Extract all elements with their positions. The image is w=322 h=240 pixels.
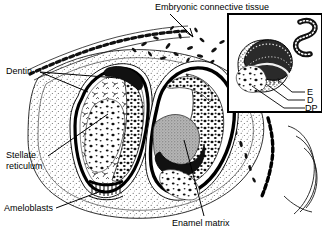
label-stellate-reticulum-line1: Stellate — [6, 150, 36, 160]
histology-figure: Embryonic connective tissue Dentin Stell… — [0, 0, 322, 240]
inset-label-dental-papilla: DP — [305, 103, 318, 113]
leader-embryonic-connective-tissue — [170, 14, 193, 37]
label-enamel-matrix: Enamel matrix — [172, 218, 230, 228]
label-ameloblasts: Ameloblasts — [4, 203, 53, 213]
label-dentin: Dentin — [6, 66, 32, 76]
label-embryonic-connective-tissue: Embryonic connective tissue — [155, 2, 269, 12]
label-stellate-reticulum-line2: reticulum — [6, 161, 43, 171]
adjacent-structure-right — [284, 126, 317, 214]
